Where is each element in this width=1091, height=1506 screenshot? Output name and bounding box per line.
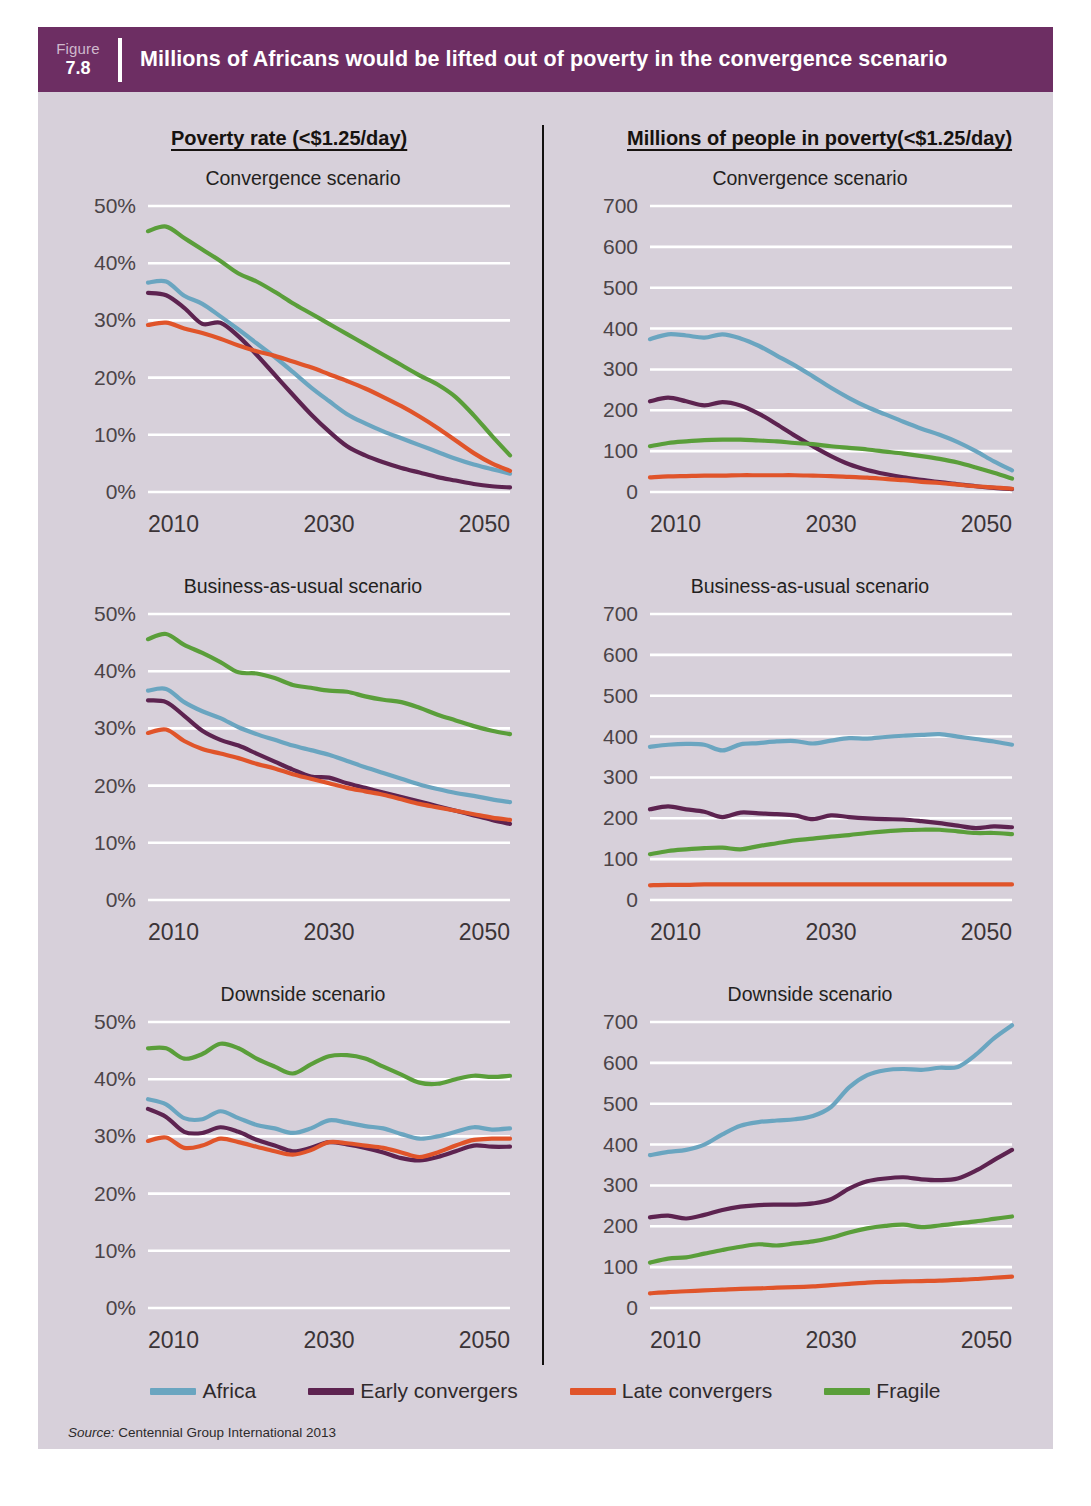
legend-label: Fragile xyxy=(876,1379,940,1403)
source-prefix: Source: xyxy=(68,1425,115,1440)
y-tick-label: 20% xyxy=(94,1182,136,1205)
series-line-fragile xyxy=(650,830,1012,855)
y-tick-label: 500 xyxy=(603,276,638,299)
header-rule-divider xyxy=(118,38,122,82)
y-tick-label: 30% xyxy=(94,308,136,331)
panel-title: Business-as-usual scenario xyxy=(56,575,526,598)
y-tick-label: 50% xyxy=(94,602,136,625)
x-tick-label: 2050 xyxy=(459,511,510,537)
series-line-late-convergers xyxy=(148,729,510,820)
chart-svg: 0%10%20%30%40%50%201020302050 xyxy=(56,600,526,960)
y-tick-label: 0% xyxy=(106,888,136,911)
series-line-late-convergers xyxy=(148,1137,510,1157)
figure-number: 7.8 xyxy=(42,59,114,78)
x-tick-label: 2010 xyxy=(650,919,701,945)
y-tick-label: 100 xyxy=(603,1255,638,1278)
legend-item-fragile: Fragile xyxy=(824,1379,940,1403)
panel-millions-bau: Business-as-usual scenario 0100200300400… xyxy=(558,575,1038,975)
y-tick-label: 200 xyxy=(603,806,638,829)
chart-canvas: 0%10%20%30%40%50%201020302050 xyxy=(56,192,526,552)
legend-swatch-icon xyxy=(824,1388,870,1395)
y-tick-label: 40% xyxy=(94,659,136,682)
legend-item-africa: Africa xyxy=(150,1379,256,1403)
panel-title: Convergence scenario xyxy=(56,167,526,190)
x-tick-label: 2010 xyxy=(148,919,199,945)
chart-svg: 0%10%20%30%40%50%201020302050 xyxy=(56,192,526,552)
panel-millions-convergence: Convergence scenario 0100200300400500600… xyxy=(558,167,1038,567)
y-tick-label: 10% xyxy=(94,831,136,854)
y-tick-label: 100 xyxy=(603,439,638,462)
source-note: Source: Centennial Group International 2… xyxy=(68,1425,336,1440)
panel-poverty-rate-bau: Business-as-usual scenario 0%10%20%30%40… xyxy=(56,575,526,975)
panel-poverty-rate-convergence: Convergence scenario 0%10%20%30%40%50%20… xyxy=(56,167,526,567)
series-line-fragile xyxy=(148,634,510,734)
source-text: Centennial Group International 2013 xyxy=(118,1425,336,1440)
chart-svg: 0100200300400500600700201020302050 xyxy=(558,600,1028,960)
column-divider xyxy=(542,125,544,1365)
legend-label: Early convergers xyxy=(360,1379,518,1403)
series-line-africa xyxy=(650,1025,1012,1155)
x-tick-label: 2010 xyxy=(650,511,701,537)
y-tick-label: 50% xyxy=(94,1010,136,1033)
panel-title: Downside scenario xyxy=(558,983,1038,1006)
y-tick-label: 400 xyxy=(603,317,638,340)
y-tick-label: 600 xyxy=(603,643,638,666)
x-tick-label: 2050 xyxy=(459,1327,510,1353)
chart-svg: 0100200300400500600700201020302050 xyxy=(558,192,1028,552)
y-tick-label: 100 xyxy=(603,847,638,870)
chart-canvas: 0100200300400500600700201020302050 xyxy=(558,600,1038,960)
x-tick-label: 2030 xyxy=(805,511,856,537)
chart-canvas: 0100200300400500600700201020302050 xyxy=(558,192,1038,552)
y-tick-label: 40% xyxy=(94,251,136,274)
y-tick-label: 30% xyxy=(94,1124,136,1147)
y-tick-label: 40% xyxy=(94,1067,136,1090)
figure-label: Figure xyxy=(42,41,114,57)
legend-item-early-convergers: Early convergers xyxy=(308,1379,518,1403)
x-tick-label: 2010 xyxy=(650,1327,701,1353)
y-tick-label: 20% xyxy=(94,774,136,797)
y-tick-label: 10% xyxy=(94,423,136,446)
y-tick-label: 500 xyxy=(603,684,638,707)
y-tick-label: 600 xyxy=(603,1051,638,1074)
y-tick-label: 30% xyxy=(94,716,136,739)
y-tick-label: 50% xyxy=(94,194,136,217)
series-line-fragile xyxy=(650,1216,1012,1262)
series-line-fragile xyxy=(650,440,1012,479)
panel-title: Business-as-usual scenario xyxy=(558,575,1038,598)
panel-poverty-rate-downside: Downside scenario 0%10%20%30%40%50%20102… xyxy=(56,983,526,1383)
series-line-late-convergers xyxy=(650,1277,1012,1294)
y-tick-label: 700 xyxy=(603,194,638,217)
x-tick-label: 2050 xyxy=(961,1327,1012,1353)
y-tick-label: 0 xyxy=(626,1296,638,1319)
y-tick-label: 400 xyxy=(603,725,638,748)
figure-page: Figure 7.8 Millions of Africans would be… xyxy=(38,27,1053,1449)
column-title-millions: Millions of people in poverty(<$1.25/day… xyxy=(627,127,1012,150)
chart-svg: 0100200300400500600700201020302050 xyxy=(558,1008,1028,1368)
legend-swatch-icon xyxy=(570,1388,616,1395)
y-tick-label: 300 xyxy=(603,1173,638,1196)
series-line-late-convergers xyxy=(650,884,1012,885)
legend-swatch-icon xyxy=(150,1388,196,1395)
chart-canvas: 0%10%20%30%40%50%201020302050 xyxy=(56,1008,526,1368)
legend-label: Late convergers xyxy=(622,1379,773,1403)
y-tick-label: 20% xyxy=(94,366,136,389)
y-tick-label: 0% xyxy=(106,480,136,503)
panel-millions-downside: Downside scenario 0100200300400500600700… xyxy=(558,983,1038,1383)
x-tick-label: 2050 xyxy=(961,511,1012,537)
legend-swatch-icon xyxy=(308,1388,354,1395)
y-tick-label: 200 xyxy=(603,398,638,421)
y-tick-label: 0 xyxy=(626,888,638,911)
x-tick-label: 2030 xyxy=(303,511,354,537)
x-tick-label: 2030 xyxy=(805,1327,856,1353)
series-line-early-convergers xyxy=(148,1109,510,1161)
series-line-late-convergers xyxy=(650,475,1012,489)
column-title-poverty-rate: Poverty rate (<$1.25/day) xyxy=(171,127,407,150)
x-tick-label: 2050 xyxy=(961,919,1012,945)
y-tick-label: 300 xyxy=(603,357,638,380)
y-tick-label: 700 xyxy=(603,602,638,625)
legend-label: Africa xyxy=(202,1379,256,1403)
panel-title: Downside scenario xyxy=(56,983,526,1006)
chart-canvas: 0%10%20%30%40%50%201020302050 xyxy=(56,600,526,960)
y-tick-label: 0% xyxy=(106,1296,136,1319)
y-tick-label: 10% xyxy=(94,1239,136,1262)
